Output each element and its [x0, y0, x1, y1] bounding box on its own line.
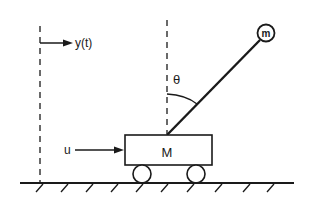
bob-mass-label: m	[262, 28, 271, 39]
angle-label: θ	[173, 72, 180, 87]
cart-wheel-left	[133, 165, 151, 183]
force-arrow	[75, 147, 124, 154]
force-label: u	[64, 143, 71, 157]
angle-arc	[167, 94, 197, 104]
displacement-label: y(t)	[75, 36, 92, 50]
displacement-arrow	[40, 40, 73, 47]
cart-mass-label: M	[162, 145, 173, 160]
pendulum-rod	[167, 40, 260, 135]
cart-wheel-right	[187, 165, 205, 183]
cart-pendulum-diagram: y(t) θ m M u	[0, 0, 312, 212]
ground-hatching	[36, 184, 274, 192]
